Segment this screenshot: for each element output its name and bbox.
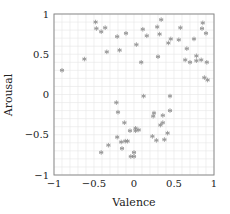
asterisk-marker-icon xyxy=(168,108,172,113)
x-tick-label: −0.5 xyxy=(82,178,106,189)
asterisk-marker-icon xyxy=(119,140,123,145)
asterisk-marker-icon xyxy=(204,31,208,36)
y-tick-label: −0.5 xyxy=(25,129,49,140)
asterisk-marker-icon xyxy=(185,46,189,51)
x-tick-label: 0 xyxy=(131,178,137,189)
asterisk-marker-icon xyxy=(139,60,143,65)
asterisk-marker-icon xyxy=(155,25,159,30)
asterisk-marker-icon xyxy=(120,146,124,151)
y-tick-label: 1 xyxy=(43,9,49,20)
asterisk-marker-icon xyxy=(105,50,109,55)
asterisk-marker-icon xyxy=(156,54,160,59)
asterisk-marker-icon xyxy=(169,37,173,42)
y-axis-label: Arousal xyxy=(2,73,15,117)
asterisk-marker-icon xyxy=(161,113,165,118)
asterisk-marker-icon xyxy=(132,154,136,159)
asterisk-marker-icon xyxy=(183,58,187,63)
scatter-chart: −1−0.500.51−1−0.500.51 Valence Arousal xyxy=(0,0,230,214)
asterisk-marker-icon xyxy=(141,27,145,32)
asterisk-marker-icon xyxy=(145,33,149,38)
x-tick-label: 1 xyxy=(211,178,217,189)
asterisk-marker-icon xyxy=(128,128,132,133)
y-tick-label: −1 xyxy=(34,170,49,181)
asterisk-marker-icon xyxy=(124,31,128,36)
asterisk-marker-icon xyxy=(188,60,192,65)
asterisk-marker-icon xyxy=(115,135,119,140)
x-tick-label: 0.5 xyxy=(166,178,182,189)
asterisk-marker-icon xyxy=(192,37,196,42)
asterisk-marker-icon xyxy=(199,58,203,63)
asterisk-marker-icon xyxy=(205,60,209,65)
asterisk-marker-icon xyxy=(159,17,163,22)
asterisk-marker-icon xyxy=(60,68,64,73)
asterisk-marker-icon xyxy=(103,25,107,30)
asterisk-marker-icon xyxy=(152,111,156,116)
asterisk-marker-icon xyxy=(166,41,170,46)
data-points xyxy=(60,17,210,158)
y-tick-label: 0 xyxy=(43,89,49,100)
asterisk-marker-icon xyxy=(201,21,205,26)
y-tick-label: 0.5 xyxy=(33,49,49,60)
x-axis-label: Valence xyxy=(111,196,155,209)
asterisk-marker-icon xyxy=(151,114,155,119)
